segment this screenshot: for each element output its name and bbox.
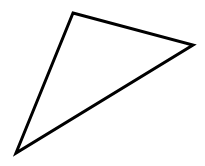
diagram-canvas	[0, 0, 205, 166]
triangle-shape	[16, 13, 193, 153]
